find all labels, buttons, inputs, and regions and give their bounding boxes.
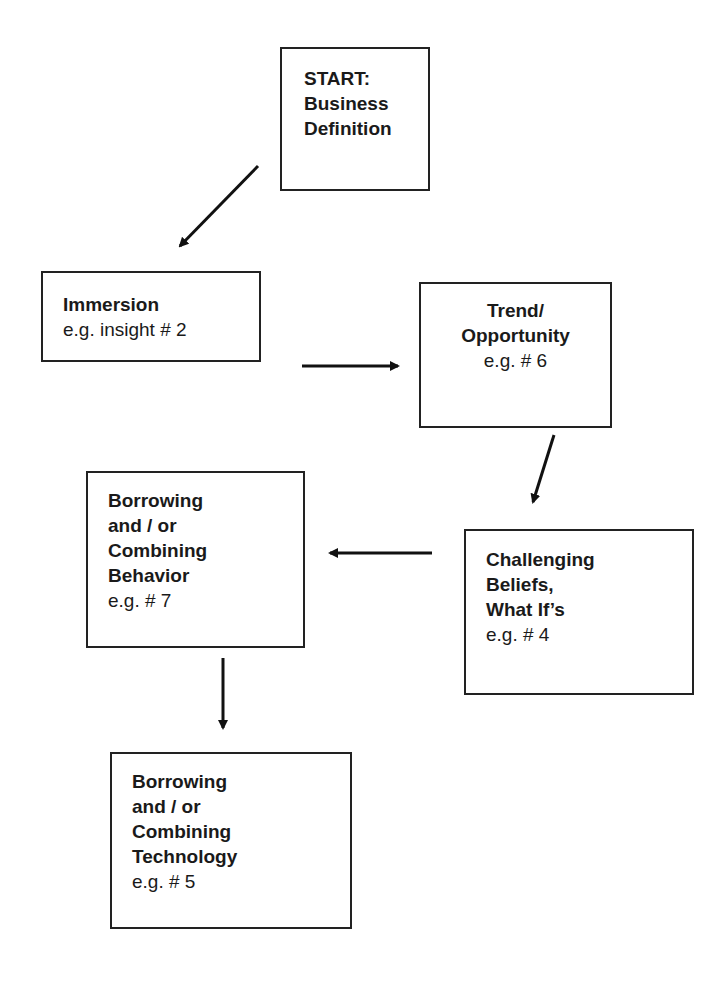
node-technology-example: e.g. # 5 [132, 869, 350, 894]
node-start-line-2: Business [304, 91, 428, 116]
node-trend-line-1: Trend/ [421, 298, 610, 323]
arrow-trend-to-challenging [533, 435, 554, 502]
node-behavior-example: e.g. # 7 [108, 588, 303, 613]
node-technology-line-2: and / or [132, 794, 350, 819]
node-behavior-line-1: Borrowing [108, 488, 303, 513]
node-challenging-example: e.g. # 4 [486, 622, 692, 647]
node-start: START: Business Definition [280, 47, 430, 191]
node-technology: Borrowing and / or Combining Technology … [110, 752, 352, 929]
arrow-start-to-immersion [180, 166, 258, 246]
node-technology-line-4: Technology [132, 844, 350, 869]
node-behavior-line-4: Behavior [108, 563, 303, 588]
node-trend-line-2: Opportunity [421, 323, 610, 348]
node-trend-example: e.g. # 6 [421, 348, 610, 373]
node-behavior-line-3: Combining [108, 538, 303, 563]
node-immersion-example: e.g. insight # 2 [63, 317, 259, 342]
node-immersion-title: Immersion [63, 292, 259, 317]
node-challenging-line-2: Beliefs, [486, 572, 692, 597]
node-technology-line-1: Borrowing [132, 769, 350, 794]
node-behavior-line-2: and / or [108, 513, 303, 538]
node-trend: Trend/ Opportunity e.g. # 6 [419, 282, 612, 428]
node-challenging-line-1: Challenging [486, 547, 692, 572]
node-start-line-1: START: [304, 66, 428, 91]
node-technology-line-3: Combining [132, 819, 350, 844]
node-challenging: Challenging Beliefs, What If’s e.g. # 4 [464, 529, 694, 695]
node-behavior: Borrowing and / or Combining Behavior e.… [86, 471, 305, 648]
node-challenging-line-3: What If’s [486, 597, 692, 622]
node-start-line-3: Definition [304, 116, 428, 141]
node-immersion: Immersion e.g. insight # 2 [41, 271, 261, 362]
